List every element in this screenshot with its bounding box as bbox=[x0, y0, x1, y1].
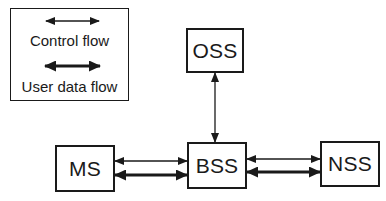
oss-node: OSS bbox=[186, 28, 244, 73]
nss-label: NSS bbox=[328, 152, 372, 176]
legend-box: Control flow User data flow bbox=[10, 8, 129, 101]
nss-node: NSS bbox=[320, 141, 380, 187]
ms-node: MS bbox=[55, 145, 115, 192]
legend-user-data-flow-label: User data flow bbox=[11, 78, 128, 95]
bss-label: BSS bbox=[196, 154, 239, 178]
bss-node: BSS bbox=[187, 142, 247, 189]
ms-label: MS bbox=[69, 157, 101, 181]
legend-control-flow-label: Control flow bbox=[11, 32, 128, 49]
oss-label: OSS bbox=[193, 39, 238, 63]
